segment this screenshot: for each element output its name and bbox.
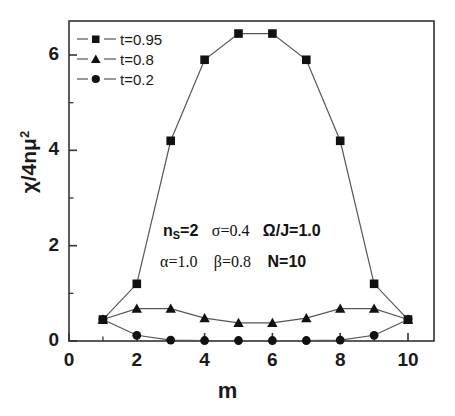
data-point-t=0.2-m7[interactable] xyxy=(302,336,311,345)
annotation-omega-over-j: Ω/J=1.0 xyxy=(263,222,321,239)
data-point-t=0.2-m5[interactable] xyxy=(234,336,243,345)
legend-marker-triangle-icon xyxy=(76,51,118,67)
y-tick-label-6: 6 xyxy=(17,43,59,65)
data-point-t=0.95-m4[interactable] xyxy=(200,55,209,64)
legend: t=0.95 t=0.8 t=0.2 xyxy=(76,30,162,88)
data-point-t=0.2-m8[interactable] xyxy=(336,336,345,345)
y-axis-label: χ/4nμ2 xyxy=(17,97,41,227)
legend-label-1: t=0.8 xyxy=(120,51,154,68)
data-point-t=0.2-m10[interactable] xyxy=(404,315,413,324)
legend-label-0: t=0.95 xyxy=(120,31,162,48)
x-axis-label: m xyxy=(0,378,455,404)
x-tick-label-10: 10 xyxy=(383,349,433,371)
series-line-t=0.8 xyxy=(103,309,408,323)
annotation-alpha: α=1.0 xyxy=(160,253,197,270)
annotation-n-total: N=10 xyxy=(267,253,306,270)
data-point-t=0.2-m9[interactable] xyxy=(370,331,379,340)
data-point-t=0.95-m8[interactable] xyxy=(336,137,345,146)
data-point-t=0.95-m5[interactable] xyxy=(234,29,243,38)
data-point-t=0.95-m7[interactable] xyxy=(302,55,311,64)
data-point-t=0.95-m6[interactable] xyxy=(268,29,277,38)
annotation-ns-subscript: S xyxy=(173,229,180,241)
data-point-t=0.2-m4[interactable] xyxy=(200,336,209,345)
data-point-t=0.2-m3[interactable] xyxy=(166,336,175,345)
annotation-ns-value: =2 xyxy=(180,222,198,239)
annotation-beta: β=0.8 xyxy=(214,253,251,270)
y-axis-label-chi: χ xyxy=(17,181,40,193)
data-point-t=0.2-m6[interactable] xyxy=(268,336,277,345)
legend-entry-2[interactable]: t=0.2 xyxy=(76,70,162,88)
annotation-sigma: σ=0.4 xyxy=(212,222,250,239)
figure-root: χ/4nμ2 m t=0.95 t=0.8 t= xyxy=(0,0,455,416)
legend-entry-1[interactable]: t=0.8 xyxy=(76,50,162,68)
data-point-t=0.95-m9[interactable] xyxy=(370,280,379,289)
legend-marker-circle-icon xyxy=(76,71,118,87)
annotation-params-line-1: nS=2 σ=0.4 Ω/J=1.0 xyxy=(163,222,321,241)
x-tick-label-4: 4 xyxy=(180,349,230,371)
y-axis-label-exponent: 2 xyxy=(17,131,32,138)
x-tick-label-6: 6 xyxy=(247,349,297,371)
legend-entry-0[interactable]: t=0.95 xyxy=(76,30,162,48)
annotation-params-line-2: α=1.0 β=0.8 N=10 xyxy=(160,253,306,271)
data-point-t=0.2-m2[interactable] xyxy=(132,331,141,340)
x-tick-label-0: 0 xyxy=(44,349,94,371)
x-tick-label-2: 2 xyxy=(112,349,162,371)
legend-marker-square-icon xyxy=(76,31,118,47)
data-point-t=0.95-m3[interactable] xyxy=(166,137,175,146)
y-tick-label-2: 2 xyxy=(17,234,59,256)
data-point-t=0.95-m2[interactable] xyxy=(133,280,142,289)
y-tick-label-0: 0 xyxy=(17,329,59,351)
y-tick-label-4: 4 xyxy=(17,138,59,160)
annotation-ns-symbol: n xyxy=(163,222,173,239)
legend-label-2: t=0.2 xyxy=(120,71,154,88)
x-tick-label-8: 8 xyxy=(315,349,365,371)
data-point-t=0.2-m1[interactable] xyxy=(99,315,108,324)
